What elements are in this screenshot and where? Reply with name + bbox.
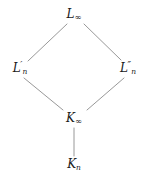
node-L-doubleprime-n: L″n (120, 60, 136, 76)
edge-line (28, 24, 67, 61)
edge-line (24, 78, 63, 110)
node-subscript-label: n (131, 68, 136, 76)
node-base-label: L (67, 7, 75, 21)
node-subscript-label: n (76, 164, 81, 172)
lattice-diagram: L∞ L′n L″n K∞ Kn (0, 0, 145, 178)
node-L-infinity: L∞ (67, 8, 82, 21)
diagram-edges (0, 0, 145, 178)
node-K-infinity: K∞ (66, 112, 82, 125)
node-L-prime-n: L′n (13, 60, 28, 76)
node-subscript-label: n (22, 68, 27, 76)
node-base-label: K (66, 111, 75, 125)
edge-line (87, 78, 124, 110)
node-K-n: Kn (67, 158, 81, 172)
edge-line (84, 24, 121, 60)
node-subscript-label: ∞ (75, 117, 82, 126)
node-subscript-label: ∞ (74, 13, 81, 22)
node-base-label: K (67, 157, 76, 171)
